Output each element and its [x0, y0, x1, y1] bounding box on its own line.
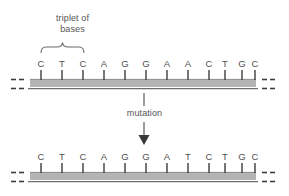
mutated-strand [11, 163, 275, 182]
original-strand [11, 70, 275, 89]
mutated-strand-ticks [41, 163, 255, 173]
triplet-brace [41, 43, 84, 54]
mutation-arrow [139, 93, 150, 145]
mutation-arrowhead [139, 135, 150, 145]
original-strand-backbone [30, 79, 256, 87]
original-strand-ticks [41, 70, 255, 80]
diagram-vector-layer [0, 0, 289, 196]
mutation-diagram: triplet of bases CTCAGGAACTGC CTCAGGATCT… [0, 0, 289, 196]
mutated-strand-backbone [30, 172, 256, 180]
